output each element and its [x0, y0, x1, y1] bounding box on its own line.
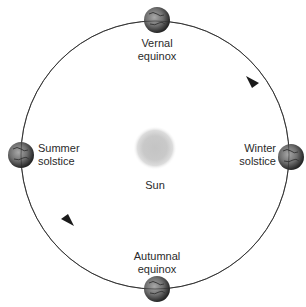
orbit-direction-arrow-icon	[246, 76, 259, 88]
label-line: equinox	[132, 50, 182, 63]
sun-label: Sun	[140, 179, 170, 192]
summer-solstice-label: Summer solstice	[38, 142, 88, 168]
label-line: Summer	[38, 142, 88, 155]
label-line: solstice	[38, 155, 88, 168]
earth-vernal-icon	[144, 7, 170, 33]
label-line: Autumnal	[127, 250, 187, 263]
label-line: equinox	[127, 263, 187, 276]
earth-winter-icon	[278, 144, 304, 170]
sun-icon	[133, 126, 177, 170]
winter-solstice-label: Winter solstice	[226, 142, 276, 168]
label-line: solstice	[226, 155, 276, 168]
label-line: Vernal	[132, 37, 182, 50]
label-line: Winter	[226, 142, 276, 155]
orbit-direction-arrow-icon	[61, 214, 74, 226]
autumnal-equinox-label: Autumnal equinox	[127, 250, 187, 276]
vernal-equinox-label: Vernal equinox	[132, 37, 182, 63]
label-line: Sun	[140, 179, 170, 192]
